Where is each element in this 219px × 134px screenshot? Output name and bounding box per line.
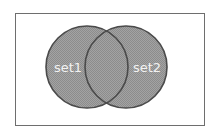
venn-diagram: set1 set2	[0, 0, 219, 134]
set2-label: set2	[133, 60, 161, 75]
venn-diagram-canvas: set1 set2	[0, 0, 219, 134]
set1-label: set1	[54, 60, 82, 75]
